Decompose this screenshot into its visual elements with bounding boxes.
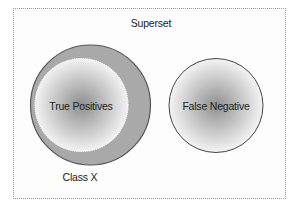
false-negative-label: False Negative — [182, 100, 249, 112]
class-x-label: Class X — [63, 171, 98, 183]
venn-diagram — [0, 0, 295, 209]
superset-label: Superset — [131, 17, 171, 29]
true-positives-label: True Positives — [49, 100, 112, 112]
